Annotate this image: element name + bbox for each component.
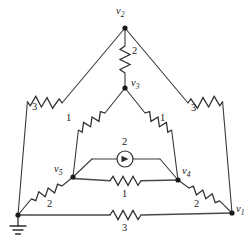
resistor-3-bottom-horizontal <box>110 210 141 219</box>
wire-v2-to-r3right <box>125 28 188 103</box>
component-label-r-v5-v4: 1 <box>122 189 127 200</box>
component-label-r-v5-gnd: 2 <box>47 199 52 210</box>
resistor-2-top-vertical <box>120 46 130 73</box>
wire-r1mid-to-v4 <box>141 180 178 181</box>
resistor-1-middle-horizontal <box>110 176 141 185</box>
node-label-v5: v5 <box>54 164 62 175</box>
node-dot-v2 <box>122 25 127 30</box>
ground-symbol <box>10 215 26 234</box>
node-label-v3: v3 <box>131 78 139 89</box>
component-label-r-gnd-v1: 3 <box>122 223 127 234</box>
node-dot-v4 <box>175 177 180 182</box>
wire-r2left-to-ground <box>18 199 31 215</box>
node-label-v2: v2 <box>116 6 124 17</box>
wire-r1left-to-v5 <box>73 130 78 177</box>
node-dot-v3 <box>122 85 127 90</box>
node-dot-v5 <box>70 174 75 179</box>
branch-v5-ground <box>18 177 73 215</box>
component-label-current-source: 2 <box>122 137 127 148</box>
branch-v3-v4 <box>125 88 178 180</box>
component-label-r-v4-v1: 2 <box>194 199 199 210</box>
wire-v5-to-source-left <box>73 159 92 177</box>
branch-v3-v5 <box>73 88 125 177</box>
circuit-schematic-canvas <box>0 0 251 247</box>
branch-ground-v1 <box>18 210 232 219</box>
node-dot-ground <box>15 212 20 217</box>
wire-r2right-to-v1 <box>220 201 232 213</box>
branch-v4-v1 <box>178 180 232 213</box>
node-dot-v1 <box>229 210 234 215</box>
branch-v2-ground <box>18 28 125 215</box>
branch-v2-v1 <box>125 28 232 213</box>
circuit-diagram: v2 v3 v5 v4 v1 2 3 3 1 1 2 1 2 2 3 <box>0 0 251 247</box>
wire-r3right-to-v1 <box>223 102 232 213</box>
component-label-r-v2-v3: 2 <box>132 46 137 57</box>
wire-r3bottom-to-v1 <box>141 213 232 215</box>
component-label-r-v3-v5: 1 <box>66 113 71 124</box>
wire-r3left-to-ground <box>18 102 27 215</box>
branch-current-source <box>73 151 178 180</box>
branch-v2-v3 <box>120 28 130 88</box>
wire-v2-to-r3left <box>62 28 125 103</box>
node-label-v4: v4 <box>182 166 190 177</box>
component-label-r-v2-v1: 3 <box>191 103 196 114</box>
node-label-v1: v1 <box>236 204 244 215</box>
branch-v5-v4-resistor <box>73 176 178 185</box>
wire-v3-to-r1left <box>105 88 125 113</box>
wire-v5-to-r1mid <box>73 179 110 181</box>
wire-v3-to-r1right <box>125 88 145 113</box>
resistor-1-right-inner <box>145 112 172 133</box>
component-label-r-v3-v4: 1 <box>160 113 165 124</box>
component-label-r-v2-gnd: 3 <box>32 102 37 113</box>
resistor-1-left-inner <box>78 112 105 133</box>
wire-r1right-to-v4 <box>172 130 178 180</box>
